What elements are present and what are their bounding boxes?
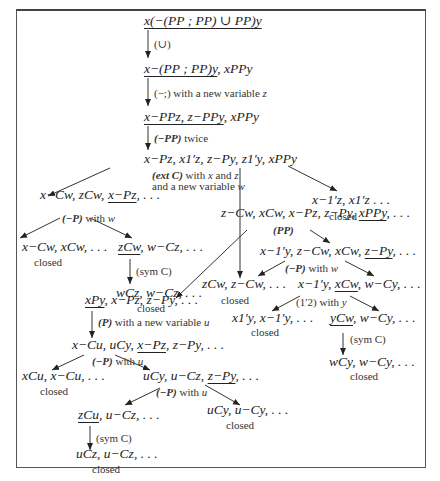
rule-label-neg-p-w: (−P) with w: [62, 212, 115, 224]
closed-label: closed: [350, 370, 378, 382]
tree-node-21: zCu, u−Cz, . . .: [78, 407, 160, 422]
tree-node-8: zCw, w−Cz, . . .: [118, 239, 203, 254]
tree-node-15: yCw, w−Cy, . . .: [330, 310, 416, 325]
tree-node-14: x1′y, x−1′y, . . .: [232, 310, 313, 325]
rule-label-one-prime-two: (1′2) with y: [296, 296, 347, 308]
rule-label-neg-p-u: (−P) with u: [92, 355, 143, 367]
closed-label: closed: [226, 419, 254, 431]
tree-node-17: xPy, x−Pz, z−Py, . . .: [85, 292, 198, 307]
tree-node-22: uCy, u−Cy, . . .: [207, 402, 289, 417]
rule-label-p-u: (P) with a new variable u: [98, 316, 209, 328]
tree-node-4: x−Pz, x1′z, z−Py, z1′y, xPPy: [144, 151, 297, 166]
rule-label-neg-p-w2: (−P) with w: [285, 262, 338, 274]
tree-node-18: x−Cu, uCy, x−Pz, z−Py, . . .: [72, 337, 224, 352]
rule-label-neg-pp: (−PP) twice: [154, 132, 208, 144]
closed-label: closed: [221, 294, 249, 306]
rule-label-sym-c: (sym C): [136, 265, 172, 277]
rule-label-sym-c-3: (sym C): [96, 432, 132, 444]
tree-node-2: x−(PP ; PP)y, xPPy: [144, 61, 253, 76]
rule-label-union: (∪): [154, 38, 171, 50]
tree-node-13: x−1′y, xCw, w−Cy, . . .: [298, 276, 421, 291]
tree-node-12: zCw, z−Cw, . . .: [202, 276, 286, 291]
tree-node-11: x−1′y, z−Cw, xCw, z−Py, . . .: [260, 243, 416, 258]
tree-node-5: x−Cw, zCw, x−Pz, . . .: [40, 187, 160, 202]
tree-node-3: x−PPz, z−PPy, xPPy: [144, 109, 259, 124]
tree-node-16: wCy, w−Cy, . . .: [329, 354, 415, 369]
tree-node-23: uCz, u−Cz, . . .: [76, 446, 158, 461]
rule-label-sym-c-2: (sym C): [350, 333, 386, 345]
tree-node-19: xCu, x−Cu, . . .: [22, 368, 105, 383]
tree-node-root: x(−(PP ; PP) ∪ PP)y: [144, 13, 262, 28]
rule-label-ext-c: (ext C) with x and z and a new variable …: [152, 170, 245, 192]
tree-node-10: z−Cw, xCw, x−Pz, z−Py, xPPy, . . .: [221, 205, 410, 220]
rule-label-pp: (PP): [273, 224, 294, 236]
closed-label: closed: [40, 385, 68, 397]
closed-label: closed: [34, 256, 62, 268]
rule-label-neg-comp: (−;) with a new variable z: [154, 87, 267, 99]
rule-label-neg-p-u-2: (−P) with u: [156, 386, 207, 398]
closed-label: closed: [251, 326, 279, 338]
closed-label: closed: [92, 463, 120, 475]
tree-node-7: x−Cw, xCw, . . .: [22, 239, 107, 254]
tree-node-20: uCy, u−Cz, z−Py, . . .: [143, 368, 259, 383]
